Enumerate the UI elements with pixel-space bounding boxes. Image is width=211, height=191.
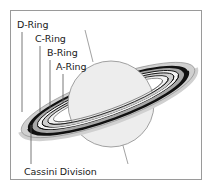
rotation-axis-top [85, 30, 93, 62]
label-c-ring: C-Ring [35, 34, 66, 44]
label-d-ring: D-Ring [17, 20, 48, 30]
label-cassini-division: Cassini Division [24, 167, 97, 177]
label-b-ring: B-Ring [47, 48, 78, 58]
label-a-ring: A-Ring [56, 62, 86, 72]
